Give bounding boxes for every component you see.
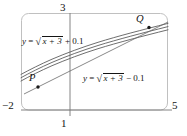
axis-tick-label-left: −2 xyxy=(2,100,14,111)
axis-tick-label-top: 3 xyxy=(60,2,66,13)
axis-tick-label-right: 5 xyxy=(172,100,178,111)
radical-upper: √ x + 3 xyxy=(36,36,63,46)
point-label-P: P xyxy=(29,73,35,84)
radicand-lower-text: x + 3 xyxy=(104,73,123,83)
equation-upper-tail: + 0.1 xyxy=(65,36,84,46)
radicand-upper: x + 3 xyxy=(42,36,63,46)
plot-frame xyxy=(22,14,168,111)
point-label-Q: Q xyxy=(136,14,144,25)
axis-tick-label-bottom: 1 xyxy=(61,118,67,129)
radical-lower: √ x + 3 xyxy=(97,73,124,83)
radicand-upper-text: x + 3 xyxy=(43,36,62,46)
point-Q-dot xyxy=(147,26,150,29)
equation-lower-tail: − 0.1 xyxy=(126,73,145,83)
equation-lower-equals: = xyxy=(89,73,94,83)
graph-canvas xyxy=(0,0,187,136)
equation-upper-equals: = xyxy=(28,36,33,46)
math-figure: 3 1 −2 5 P Q y = √ x + 3 + 0.1 y = √ x +… xyxy=(0,0,187,136)
equation-lower-curve: y = √ x + 3 − 0.1 xyxy=(83,73,144,83)
equation-lower-lhs: y xyxy=(83,73,87,83)
point-P-dot xyxy=(36,85,39,88)
equation-upper-curve: y = √ x + 3 + 0.1 xyxy=(22,36,83,46)
equation-upper-lhs: y xyxy=(22,36,26,46)
radical-sign-icon: √ xyxy=(36,37,42,47)
radicand-lower: x + 3 xyxy=(103,73,124,83)
radical-sign-icon: √ xyxy=(97,74,103,84)
